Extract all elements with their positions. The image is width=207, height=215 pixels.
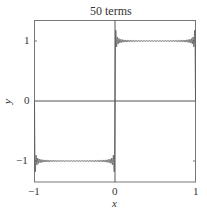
xtick-label-0: 0 (112, 186, 118, 197)
plot-area (0, 0, 207, 215)
xtick-label-1: 1 (193, 186, 199, 197)
ytick-label-minus1: −1 (16, 155, 28, 166)
chart-title: 50 terms (90, 6, 132, 17)
ytick-label-0: 0 (24, 95, 30, 106)
ytick-label-1: 1 (24, 35, 30, 46)
x-axis-label: x (112, 198, 117, 209)
y-axis-label: y (2, 99, 13, 104)
xtick-label-minus1: −1 (28, 186, 40, 197)
